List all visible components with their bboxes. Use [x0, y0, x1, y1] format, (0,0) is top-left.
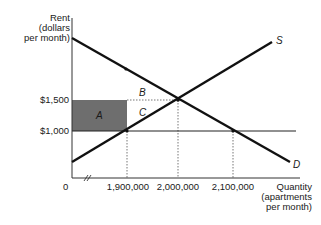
supply-label: S	[276, 36, 283, 46]
area-b-label: B	[139, 88, 146, 98]
x-axis-title-line-3: per month)	[256, 202, 312, 212]
x-axis-title: Quantity (apartments per month)	[256, 182, 312, 212]
equilibrium-point	[176, 98, 180, 102]
y-tick-1000: $1,000	[20, 126, 69, 136]
origin-label: 0	[63, 182, 68, 192]
ceiling-supply-point	[125, 129, 128, 132]
y-tick-1500: $1,500	[20, 95, 69, 105]
area-a-label: A	[96, 111, 103, 121]
y-axis-title: Rent (dollars per month)	[14, 13, 70, 43]
demand-point-marker	[124, 67, 127, 70]
x-tick-2000000: 2,000,000	[156, 182, 200, 192]
ceiling-demand-point	[231, 129, 234, 132]
x-tick-1900000: 1,900,000	[106, 182, 150, 192]
demand-label: D	[293, 160, 300, 170]
area-c-label: C	[139, 108, 146, 118]
x-tick-2100000: 2,100,000	[211, 182, 255, 192]
y-axis-title-line-3: per month)	[14, 33, 70, 43]
